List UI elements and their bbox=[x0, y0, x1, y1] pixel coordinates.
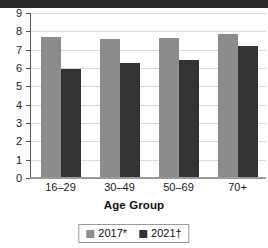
y-tick-label-6: 6 bbox=[4, 63, 22, 74]
bar-chart-figure: 9876543210 16–2930–4950–6970+ Age Group … bbox=[0, 0, 268, 248]
bar-2017-70 bbox=[218, 34, 238, 178]
y-tick-label-8: 8 bbox=[4, 26, 22, 37]
bar-group bbox=[149, 13, 208, 178]
y-tick-mark-1 bbox=[26, 160, 30, 161]
x-tick-label: 30–49 bbox=[90, 180, 149, 194]
x-axis-title: Age Group bbox=[0, 199, 268, 211]
x-axis-tick-labels: 16–2930–4950–6970+ bbox=[31, 180, 267, 196]
y-tick-mark-6 bbox=[26, 68, 30, 69]
y-tick-label-5: 5 bbox=[4, 81, 22, 92]
y-tick-label-2: 2 bbox=[4, 136, 22, 147]
bar-2021-3049 bbox=[120, 63, 140, 179]
legend-label: 2021† bbox=[151, 228, 182, 239]
bar-group bbox=[31, 13, 90, 178]
legend-label: 2017* bbox=[98, 228, 127, 239]
bar-2017-1629 bbox=[41, 37, 61, 178]
x-tick-label: 50–69 bbox=[149, 180, 208, 194]
bar-group bbox=[90, 13, 149, 178]
x-tick-label: 70+ bbox=[208, 180, 267, 194]
y-tick-mark-3 bbox=[26, 123, 30, 124]
y-tick-label-1: 1 bbox=[4, 155, 22, 166]
y-tick-label-4: 4 bbox=[4, 100, 22, 111]
y-tick-label-9: 9 bbox=[4, 8, 22, 19]
gridline-0 bbox=[30, 178, 266, 179]
bar-2021-70 bbox=[238, 46, 258, 178]
y-tick-mark-0 bbox=[26, 178, 30, 179]
plot-area bbox=[30, 13, 266, 178]
y-axis-tick-labels: 9876543210 bbox=[4, 13, 22, 178]
x-tick-label: 16–29 bbox=[31, 180, 90, 194]
x-axis-baseline bbox=[30, 177, 266, 178]
image-top-band bbox=[0, 0, 268, 8]
y-tick-mark-5 bbox=[26, 86, 30, 87]
y-tick-label-0: 0 bbox=[4, 173, 22, 184]
y-tick-mark-7 bbox=[26, 50, 30, 51]
y-tick-mark-8 bbox=[26, 31, 30, 32]
bar-group bbox=[208, 13, 267, 178]
chart-legend: 2017*2021† bbox=[78, 224, 189, 243]
y-tick-label-3: 3 bbox=[4, 118, 22, 129]
y-tick-mark-9 bbox=[26, 13, 30, 14]
y-tick-label-7: 7 bbox=[4, 45, 22, 56]
bar-2021-5069 bbox=[179, 60, 199, 178]
bar-groups bbox=[31, 13, 266, 178]
legend-swatch-icon bbox=[139, 230, 147, 238]
y-tick-mark-2 bbox=[26, 141, 30, 142]
legend-item: 2021† bbox=[139, 228, 182, 239]
legend-swatch-icon bbox=[86, 230, 94, 238]
y-tick-mark-4 bbox=[26, 105, 30, 106]
bar-2017-3049 bbox=[100, 39, 120, 178]
bar-2021-1629 bbox=[61, 69, 81, 178]
bar-2017-5069 bbox=[159, 38, 179, 178]
legend-item: 2017* bbox=[86, 228, 127, 239]
